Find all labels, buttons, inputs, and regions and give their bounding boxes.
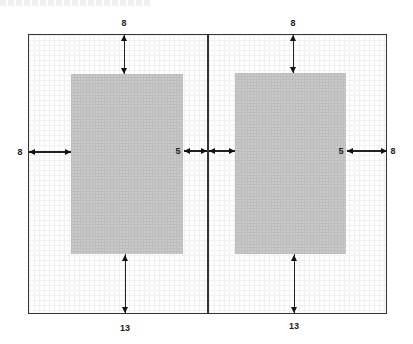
right-outer-margin-label: 8 <box>388 146 398 156</box>
arrow-left-icon <box>347 148 353 154</box>
arrow-down-icon <box>121 68 127 74</box>
right-top-margin-label: 8 <box>287 18 299 28</box>
left-top-margin-label: 8 <box>118 18 130 28</box>
arrow-left-icon <box>209 148 215 154</box>
arrow-right-icon <box>229 148 235 154</box>
arrow-up-icon <box>291 255 297 261</box>
arrow-down-icon <box>290 67 296 73</box>
arrow-right-icon <box>65 149 71 155</box>
right-page-text-block <box>235 73 346 254</box>
left-bottom-margin-line <box>125 254 127 314</box>
arrow-left-icon <box>184 148 190 154</box>
arrow-up-icon <box>122 255 128 261</box>
clipped-header-text <box>0 0 150 6</box>
arrow-down-icon <box>122 307 128 313</box>
left-outer-margin-label: 8 <box>14 147 26 157</box>
arrow-up-icon <box>290 35 296 41</box>
arrow-up-icon <box>121 35 127 41</box>
arrow-right-icon <box>381 148 387 154</box>
left-page-text-block <box>71 74 183 254</box>
right-inner-margin-label: 5 <box>336 146 346 156</box>
right-bottom-margin-label: 13 <box>284 321 304 331</box>
right-bottom-margin-line <box>294 254 296 314</box>
left-bottom-margin-label: 13 <box>115 323 135 333</box>
spine-divider <box>207 34 209 314</box>
arrow-right-icon <box>201 148 207 154</box>
left-inner-margin-label: 5 <box>173 146 183 156</box>
arrow-down-icon <box>291 307 297 313</box>
arrow-left-icon <box>29 149 35 155</box>
